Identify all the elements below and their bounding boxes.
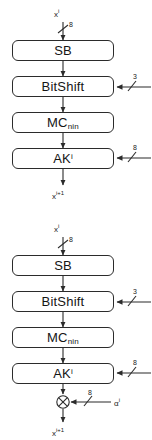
block-ak[interactable]: AKi xyxy=(12,148,114,169)
block-ak[interactable]: AKi xyxy=(12,363,114,384)
wires-top xyxy=(0,0,152,215)
input-label: xi xyxy=(54,223,59,234)
side-input-width-bitshift: 3 xyxy=(133,288,137,295)
block-ak-label: AKi xyxy=(53,152,73,165)
side-input-slash-ak xyxy=(128,152,136,162)
input-width-label: 8 xyxy=(69,236,73,243)
side-input-width-ak: 8 xyxy=(133,359,137,366)
side-input-slash-bitshift xyxy=(128,81,136,91)
output-label: xi+1 xyxy=(52,190,64,201)
block-bitshift[interactable]: BitShift xyxy=(12,291,114,312)
block-bitshift-label: BitShift xyxy=(42,295,85,308)
block-sb-label: SB xyxy=(54,44,72,57)
block-mc[interactable]: MCnin xyxy=(12,327,114,348)
xor-input-label: αi xyxy=(114,397,120,408)
xor-input-width-label: 8 xyxy=(88,389,92,396)
xor-input-slash xyxy=(84,396,92,406)
output-label: xi+1 xyxy=(52,427,64,438)
block-sb-label: SB xyxy=(54,259,72,272)
block-ak-label: AKi xyxy=(53,367,73,380)
round-diagram-with-alpha: xi 8 SB BitShift MCnin AKi 3 8 8 αi xi+1 xyxy=(0,215,152,440)
block-mc-label: MCnin xyxy=(47,116,79,129)
side-input-slash-bitshift xyxy=(128,296,136,306)
round-diagram-without-alpha: xi 8 SB BitShift MCnin AKi 3 8 xi+1 xyxy=(0,0,152,215)
input-width-label: 8 xyxy=(69,21,73,28)
side-input-width-bitshift: 3 xyxy=(133,73,137,80)
block-sb[interactable]: SB xyxy=(12,40,114,61)
block-sb[interactable]: SB xyxy=(12,255,114,276)
block-bitshift-label: BitShift xyxy=(42,80,85,93)
side-input-slash-ak xyxy=(128,367,136,377)
block-bitshift[interactable]: BitShift xyxy=(12,76,114,97)
block-mc-label: MCnin xyxy=(47,331,79,344)
input-label: xi xyxy=(54,8,59,19)
side-input-width-ak: 8 xyxy=(133,144,137,151)
block-mc[interactable]: MCnin xyxy=(12,112,114,133)
